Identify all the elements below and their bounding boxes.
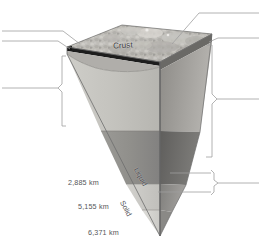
lower-mantle-layer xyxy=(101,131,160,184)
left-brace-mantle xyxy=(2,56,66,126)
inner-core-layer xyxy=(142,210,160,236)
outer-core-layer xyxy=(126,184,160,210)
crust-label: Crust xyxy=(113,40,133,50)
left-leader-second xyxy=(2,41,70,49)
depth-label-core-mantle-boundary: 2,885 km xyxy=(68,178,99,187)
right-brace-mantle xyxy=(206,45,259,157)
wedge-side-wall xyxy=(160,34,212,236)
depth-label-inner-core-boundary: 5,155 km xyxy=(78,202,109,211)
left-leader-top xyxy=(2,31,80,44)
right-leader-second xyxy=(209,38,259,42)
earth-interior-diagram: Crust Liquid Solid 2,885 km 5,155 km 6,3… xyxy=(0,0,261,252)
depth-label-earth-center: 6,371 km xyxy=(88,228,119,237)
